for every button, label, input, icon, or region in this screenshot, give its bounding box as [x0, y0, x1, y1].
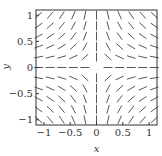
slope-segment — [69, 76, 77, 80]
slope-segment — [129, 116, 134, 124]
slope-segment — [139, 106, 146, 112]
slope-segment — [117, 105, 121, 113]
slope-segment — [71, 22, 75, 30]
slope-segment — [140, 116, 146, 123]
slope-segment — [47, 23, 54, 29]
slope-segment — [139, 23, 146, 29]
slope-segment — [116, 55, 124, 59]
slope-segment — [129, 11, 134, 19]
slope-segment — [83, 84, 87, 92]
x-tick-label: −0.5 — [58, 127, 82, 138]
slope-segment — [105, 54, 112, 60]
slope-segment — [116, 85, 123, 91]
slope-segment — [128, 33, 135, 39]
slope-segment — [83, 32, 86, 40]
y-tick-label: −1 — [18, 114, 33, 125]
slope-segment — [57, 56, 66, 59]
slope-segment — [46, 77, 55, 79]
slope-segment — [82, 75, 89, 81]
x-axis-ticks: −1−0.500.51 — [37, 122, 153, 138]
slope-segment — [107, 115, 109, 124]
slope-segment — [82, 54, 89, 60]
slope-segment — [106, 43, 110, 51]
slope-segment — [128, 106, 134, 113]
slope-segment — [116, 76, 124, 80]
y-tick-label: −0.5 — [9, 88, 33, 99]
y-tick-label: 0.5 — [17, 36, 33, 47]
slope-segment — [84, 105, 86, 114]
slope-segment — [46, 34, 53, 39]
slope-segment — [139, 96, 146, 101]
slope-segment — [116, 44, 123, 50]
slope-segment — [139, 34, 146, 39]
slope-segments — [34, 11, 159, 125]
slope-segment — [83, 95, 86, 103]
slope-segment — [127, 56, 136, 59]
slope-segment — [106, 84, 110, 92]
slope-segment — [72, 116, 76, 124]
slope-segment — [47, 106, 54, 112]
slope-segment — [107, 21, 109, 30]
slope-segment — [117, 95, 122, 102]
y-axis-label: y — [0, 64, 11, 71]
slope-segment — [58, 44, 66, 49]
slope-segment — [59, 116, 64, 124]
x-axis-label: x — [94, 143, 100, 154]
x-tick-label: −1 — [37, 127, 52, 138]
slope-segment — [138, 77, 147, 79]
slope-segment — [69, 55, 77, 59]
slope-segment — [84, 11, 86, 20]
slope-segment — [127, 77, 136, 80]
slope-segment — [46, 96, 53, 101]
slope-segment — [117, 22, 121, 30]
slope-segment — [46, 45, 54, 49]
slope-segment — [107, 105, 109, 114]
y-tick-label: 0 — [27, 62, 33, 73]
slope-segment — [118, 11, 122, 19]
slope-segment — [58, 33, 65, 39]
slope-segment — [138, 56, 147, 58]
slope-segment — [84, 21, 86, 30]
slope-segment — [71, 95, 76, 102]
slope-segment — [46, 56, 55, 58]
slope-segment — [84, 115, 86, 124]
slope-segment — [128, 22, 134, 29]
slope-segment — [59, 11, 64, 19]
slope-segment — [58, 86, 66, 91]
slope-segment — [127, 44, 135, 49]
slope-segment — [70, 85, 77, 91]
slope-segment — [139, 87, 147, 91]
slope-segment — [128, 96, 135, 102]
y-tick-label: 1 — [27, 10, 33, 21]
slope-segment — [59, 22, 65, 29]
slope-segment — [105, 75, 112, 81]
slope-segment — [47, 12, 53, 19]
x-tick-label: 0.5 — [115, 127, 131, 138]
slope-segment — [71, 105, 75, 113]
x-tick-label: 0 — [93, 127, 99, 138]
slope-segment — [107, 95, 110, 103]
slope-segment — [107, 11, 109, 20]
slope-segment — [139, 45, 147, 49]
slope-field-chart: −1−0.500.51 −1−0.500.51 x y — [0, 0, 162, 156]
slope-segment — [107, 32, 110, 40]
slope-segment — [83, 43, 87, 51]
slope-segment — [57, 77, 66, 80]
slope-segment — [59, 106, 65, 113]
slope-segment — [47, 116, 53, 123]
slope-segment — [58, 96, 65, 102]
slope-segment — [72, 11, 76, 19]
slope-segment — [70, 44, 77, 50]
x-tick-label: 1 — [146, 127, 152, 138]
slope-segment — [117, 33, 122, 40]
slope-segment — [140, 12, 146, 19]
slope-segment — [118, 116, 122, 124]
slope-segment — [127, 86, 135, 91]
slope-segment — [46, 87, 54, 91]
slope-segment — [71, 33, 76, 40]
